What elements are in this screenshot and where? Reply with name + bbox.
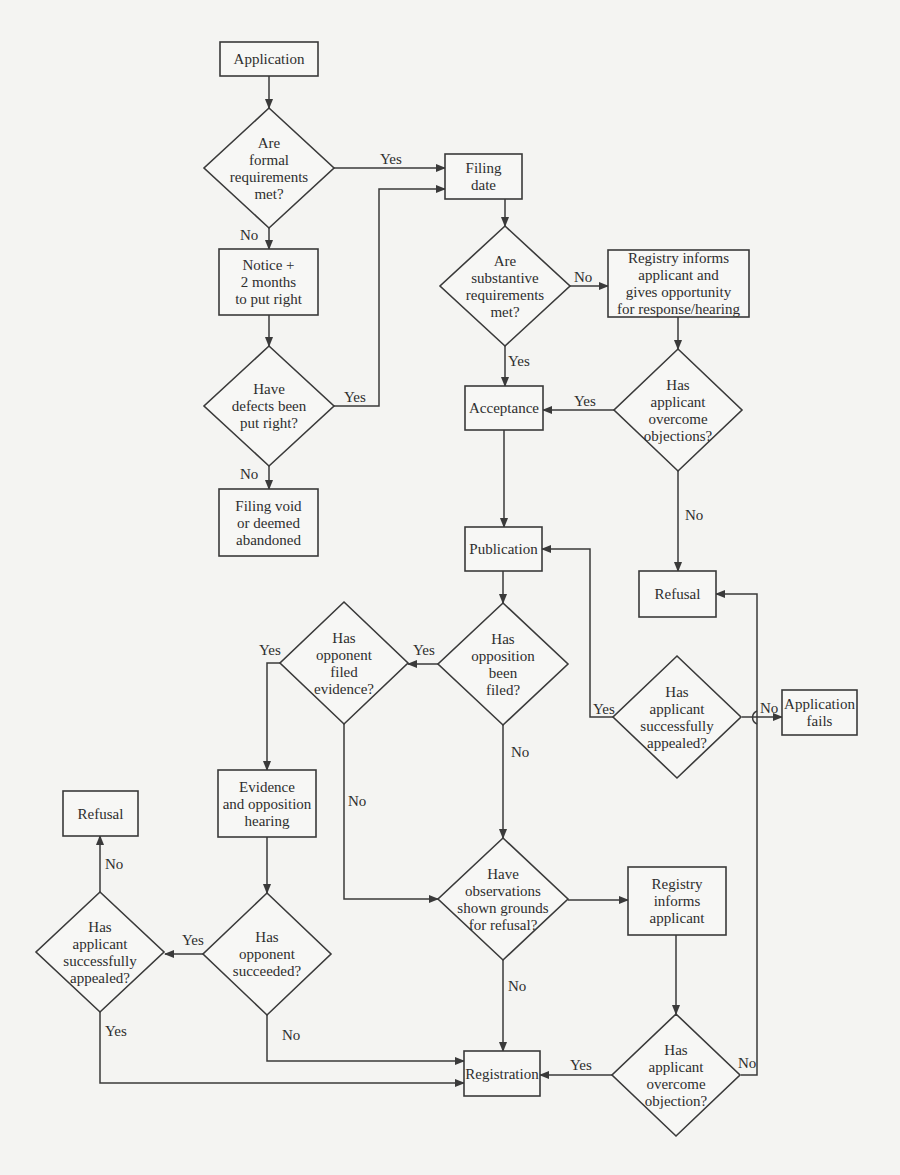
edge-label: No <box>760 700 778 716</box>
node-text: shown grounds <box>457 900 548 916</box>
node-refusal-left: Refusal <box>63 791 138 836</box>
node-text: Registry <box>652 876 703 892</box>
node-notice: Notice +2 monthsto put right <box>219 249 318 315</box>
node-text: hearing <box>245 813 290 829</box>
node-text: Have <box>253 381 285 397</box>
node-text: Has <box>332 630 355 646</box>
node-text: objection? <box>645 1093 708 1109</box>
node-application-fails: Applicationfails <box>782 690 857 735</box>
edge-opponent_evidence-to-evidence_hearing <box>267 663 280 770</box>
node-text: for response/hearing <box>617 301 740 317</box>
node-overcome-objection: Hasapplicantovercomeobjection? <box>612 1014 740 1136</box>
node-opposition-filed: Hasoppositionbeenfiled? <box>438 603 568 725</box>
node-opponent-succeeded: Hasopponentsucceeded? <box>203 893 331 1015</box>
node-registry-informs-2: Registryinformsapplicant <box>628 867 726 935</box>
edge-label: No <box>574 269 592 285</box>
node-text: opponent <box>239 946 296 962</box>
node-text: filed <box>330 664 358 680</box>
node-evidence-hearing: Evidenceand oppositionhearing <box>218 770 316 837</box>
node-publication: Publication <box>465 527 542 571</box>
node-appealed-left: Hasapplicantsuccessfullyappealed? <box>36 892 164 1012</box>
node-text: Refusal <box>655 586 701 602</box>
node-text: applicant <box>73 936 129 952</box>
edge-label: Yes <box>380 151 402 167</box>
edge-label: No <box>685 507 703 523</box>
node-text: successfully <box>640 718 714 734</box>
node-text: opponent <box>316 647 373 663</box>
node-text: Has <box>255 929 278 945</box>
edge-appealed_right-to-publication <box>542 549 613 717</box>
node-opponent-evidence: Hasopponentfiledevidence? <box>280 602 408 724</box>
node-text: applicant <box>651 394 707 410</box>
node-text: Has <box>665 684 688 700</box>
node-text: successfully <box>63 953 137 969</box>
edge-label: No <box>738 1055 756 1071</box>
edge-overcome_objection-to-refusal_right <box>716 594 757 1075</box>
edge-label: No <box>240 227 258 243</box>
edge-label: Yes <box>413 642 435 658</box>
node-text: defects been <box>232 398 307 414</box>
node-text: Application <box>784 696 855 712</box>
edge-appealed_left-to-registration <box>100 1012 464 1083</box>
node-acceptance: Acceptance <box>465 386 543 430</box>
node-text: Has <box>491 631 514 647</box>
flowchart-nodes: ApplicationAreformalrequirementsmet?Fili… <box>36 42 857 1136</box>
node-text: substantive <box>471 270 539 286</box>
node-text: Registration <box>465 1066 539 1082</box>
node-text: evidence? <box>314 681 374 697</box>
edge-label: Yes <box>508 353 530 369</box>
node-text: informs <box>654 893 701 909</box>
edge-label: Yes <box>574 393 596 409</box>
node-text: gives opportunity <box>626 284 732 300</box>
node-formal-req: Areformalrequirementsmet? <box>204 108 334 228</box>
node-text: Filing void <box>235 498 302 514</box>
node-filing-void: Filing voidor deemedabandoned <box>219 489 318 556</box>
node-defects-right: Havedefects beenput right? <box>204 346 334 466</box>
node-text: met? <box>490 304 519 320</box>
node-text: Notice + <box>242 257 294 273</box>
node-text: requirements <box>466 287 544 303</box>
node-text: applicant <box>650 701 706 717</box>
edge-opponent_evidence-to-observations <box>344 724 438 899</box>
edge-label: No <box>105 856 123 872</box>
node-text: Acceptance <box>469 400 539 416</box>
edge-label: Yes <box>259 642 281 658</box>
node-text: been <box>489 665 518 681</box>
node-overcome-objections: Hasapplicantovercomeobjections? <box>614 349 742 471</box>
node-text: Has <box>664 1042 687 1058</box>
node-text: filed? <box>486 682 520 698</box>
edge-label: No <box>511 744 529 760</box>
node-text: overcome <box>648 411 707 427</box>
node-text: Has <box>88 919 111 935</box>
node-text: appealed? <box>647 735 707 751</box>
node-text: applicant <box>650 910 706 926</box>
node-text: succeeded? <box>233 963 302 979</box>
node-text: date <box>471 177 496 193</box>
node-text: for refusal? <box>469 917 538 933</box>
node-text: put right? <box>240 415 298 431</box>
node-text: fails <box>807 713 833 729</box>
node-text: Publication <box>469 541 538 557</box>
node-registration: Registration <box>464 1051 540 1096</box>
edge-label: No <box>240 466 258 482</box>
node-text: or deemed <box>237 515 300 531</box>
edge-label: Yes <box>344 389 366 405</box>
node-text: applicant <box>649 1059 705 1075</box>
node-appealed-right: Hasapplicantsuccessfullyappealed? <box>613 656 741 778</box>
node-text: appealed? <box>70 970 130 986</box>
node-text: formal <box>249 152 289 168</box>
flowchart-canvas: ApplicationAreformalrequirementsmet?Fili… <box>0 0 900 1175</box>
edge-label: Yes <box>593 701 615 717</box>
edge-label: Yes <box>105 1023 127 1039</box>
edge-label: No <box>508 978 526 994</box>
node-application: Application <box>220 42 318 76</box>
node-text: to put right <box>235 291 302 307</box>
node-text: Are <box>494 253 517 269</box>
node-text: Has <box>666 377 689 393</box>
node-observations: Haveobservationsshown groundsfor refusal… <box>438 838 568 960</box>
edge-label: No <box>282 1027 300 1043</box>
edge-label: No <box>348 793 366 809</box>
node-text: Application <box>234 51 305 67</box>
node-text: opposition <box>471 648 535 664</box>
node-text: objections? <box>644 428 713 444</box>
